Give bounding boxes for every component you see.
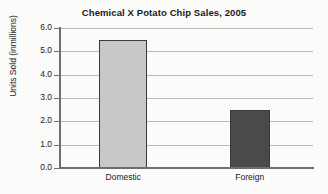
gridline <box>60 98 313 99</box>
y-tick-label: 2.0 <box>22 115 52 125</box>
y-tick-label: 5.0 <box>22 45 52 55</box>
y-tick-label: 0.0 <box>22 162 52 172</box>
y-tick-label: 6.0 <box>22 22 52 32</box>
y-axis-line <box>59 27 61 169</box>
y-tick-label: 1.0 <box>22 139 52 149</box>
x-axis-line <box>59 167 314 169</box>
y-tick-label: 4.0 <box>22 69 52 79</box>
y-axis-tick-labels: 0.01.02.03.04.05.06.0 <box>18 0 52 194</box>
bar <box>99 40 147 168</box>
plot-area <box>60 28 313 168</box>
y-axis-title-text: Units Sold (inmillions) <box>8 0 18 116</box>
gridline <box>60 121 313 122</box>
bar <box>230 110 270 168</box>
chart-figure: Chemical X Potato Chip Sales, 2005 Units… <box>0 0 328 194</box>
gridline <box>60 51 313 52</box>
x-tick-label: Domestic <box>78 172 168 182</box>
gridline <box>60 28 313 29</box>
gridline <box>60 145 313 146</box>
gridline <box>60 75 313 76</box>
x-tick-label: Foreign <box>205 172 295 182</box>
y-tick-label: 3.0 <box>22 92 52 102</box>
